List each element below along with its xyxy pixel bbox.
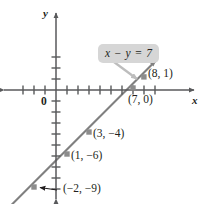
point-1-minus6 [64, 151, 69, 156]
origin-label: 0 [41, 96, 47, 108]
x-axis [4, 86, 194, 95]
point-label-1-minus6: (1, −6) [71, 150, 102, 162]
point-label-3-minus4: (3, −4) [93, 128, 124, 140]
coordinate-plane [0, 0, 208, 204]
point-8-1 [141, 74, 146, 79]
point-label-7-0: (7, 0) [128, 94, 153, 106]
y-axis [52, 13, 61, 199]
x-axis-label: x [192, 95, 198, 106]
point-3-minus4 [86, 129, 91, 134]
point-label-8-1: (8, 1) [148, 68, 173, 80]
equation-leader-arrow [114, 62, 137, 79]
equation-callout: x − y = 7 [98, 44, 159, 63]
graph-figure: x − y = 7 y x 0 (8, 1) (7, 0) (3, −4) (1… [0, 0, 208, 204]
y-axis-label: y [43, 8, 48, 19]
point-minus2-minus9 [31, 184, 36, 189]
point-label-minus2-minus9: (−2, −9) [63, 183, 101, 195]
point-7-0 [130, 85, 135, 90]
